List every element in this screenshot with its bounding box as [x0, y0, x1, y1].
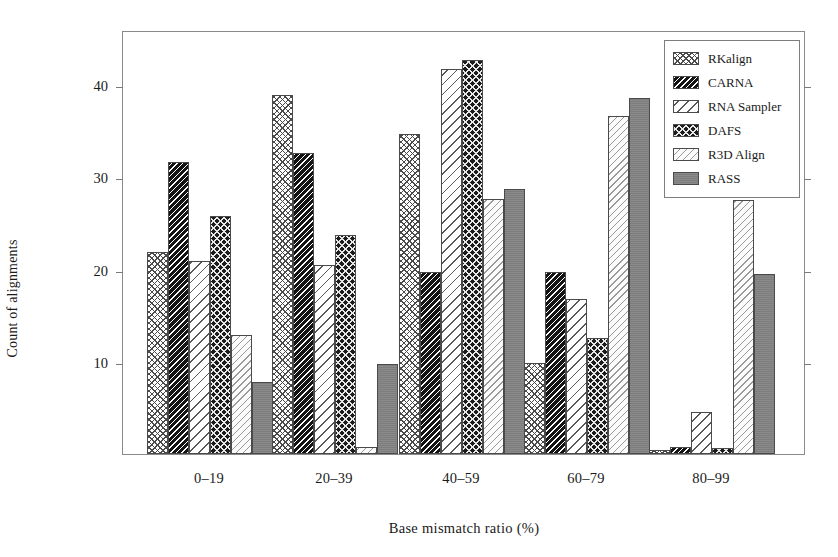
- legend-swatch-icon: [673, 52, 699, 65]
- y-axis-tick-right: [804, 364, 811, 365]
- legend-swatch-icon: [673, 172, 699, 185]
- x-axis-tick-label: 80–99: [692, 470, 730, 487]
- bar: [587, 338, 608, 454]
- bar: [504, 189, 525, 454]
- legend-swatch-icon: [673, 148, 699, 161]
- legend-item-label: R3D Align: [708, 147, 765, 163]
- legend-item: RNA Sampler: [673, 96, 791, 117]
- bar: [335, 235, 356, 454]
- bar: [629, 98, 650, 454]
- bar: [566, 299, 587, 454]
- x-axis-title: Base mismatch ratio (%): [122, 516, 806, 540]
- y-axis-tick: [116, 364, 123, 365]
- y-axis-tick-right: [804, 87, 811, 88]
- y-axis-tick-label: 10: [64, 354, 108, 371]
- bar: [272, 95, 293, 454]
- bar: [545, 272, 566, 455]
- bar: [314, 265, 335, 454]
- y-axis-tick-right: [804, 272, 811, 273]
- bar: [231, 335, 252, 454]
- bar: [252, 382, 273, 454]
- x-axis-tick-label: 40–59: [442, 470, 480, 487]
- bar: [441, 69, 462, 454]
- legend-item-label: CARNA: [708, 75, 754, 91]
- bar: [712, 448, 733, 454]
- bar: [293, 153, 314, 454]
- legend-swatch-icon: [673, 124, 699, 137]
- bar: [399, 134, 420, 454]
- legend-item: RKalign: [673, 48, 791, 69]
- bar-group: [524, 32, 650, 454]
- bar: [524, 363, 545, 454]
- legend-item: DAFS: [673, 120, 791, 141]
- bar: [754, 274, 775, 454]
- legend-item: CARNA: [673, 72, 791, 93]
- bar: [483, 199, 504, 454]
- legend: RKalignCARNARNA SamplerDAFSR3D AlignRASS: [664, 40, 800, 198]
- bar: [147, 252, 168, 454]
- y-axis-title-text: Count of alignments: [5, 199, 21, 357]
- bar: [462, 60, 483, 455]
- bar: [356, 447, 377, 454]
- bar: [670, 447, 691, 454]
- legend-item-label: DAFS: [708, 123, 741, 139]
- y-axis-tick-label: 40: [64, 78, 108, 95]
- bar: [189, 261, 210, 454]
- bar: [649, 450, 670, 454]
- y-axis-tick-label: 20: [64, 262, 108, 279]
- x-axis-tick-label: 20–39: [315, 470, 353, 487]
- bar: [168, 162, 189, 454]
- bar: [210, 216, 231, 454]
- y-axis-title: Count of alignments: [0, 0, 26, 557]
- bar-group: [147, 32, 273, 454]
- bar: [608, 116, 629, 454]
- legend-item-label: RASS: [708, 171, 741, 187]
- bar: [733, 200, 754, 454]
- legend-item-label: RNA Sampler: [708, 99, 781, 115]
- y-axis-tick: [116, 272, 123, 273]
- bar: [377, 364, 398, 454]
- y-axis-tick-right: [804, 179, 811, 180]
- y-axis-tick-label: 30: [64, 170, 108, 187]
- y-axis-tick: [116, 179, 123, 180]
- bar-group: [399, 32, 525, 454]
- bar: [691, 412, 712, 454]
- legend-item: R3D Align: [673, 144, 791, 165]
- x-axis-tick-label: 0–19: [194, 470, 224, 487]
- legend-item: RASS: [673, 168, 791, 189]
- y-axis-tick: [116, 87, 123, 88]
- chart-figure: Count of alignments Base mismatch ratio …: [0, 0, 838, 557]
- bar: [420, 272, 441, 455]
- x-axis-title-text: Base mismatch ratio (%): [389, 520, 540, 537]
- legend-item-label: RKalign: [708, 51, 752, 67]
- bar-group: [272, 32, 398, 454]
- legend-swatch-icon: [673, 100, 699, 113]
- x-axis-tick-label: 60–79: [567, 470, 605, 487]
- legend-swatch-icon: [673, 76, 699, 89]
